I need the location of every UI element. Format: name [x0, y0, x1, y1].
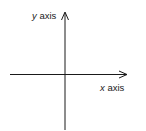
x-axis-label: x axis [99, 82, 125, 93]
y-axis-label-word: axis [37, 10, 57, 21]
y-axis-label: y axis [31, 10, 57, 21]
x-axis-label-word: axis [105, 82, 125, 93]
coordinate-axes-diagram: y axis x axis [0, 0, 146, 131]
